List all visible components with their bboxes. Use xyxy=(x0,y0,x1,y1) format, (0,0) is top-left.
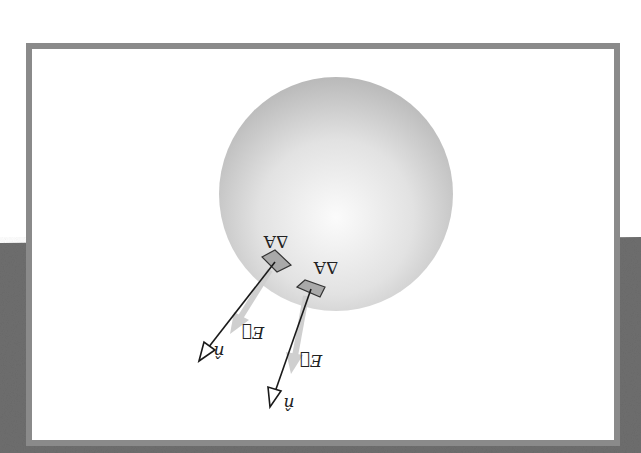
figure-photo: ΔA ΔA n̂ n̂ E⃗ E⃗ xyxy=(0,0,641,453)
normal-label-1: n̂ xyxy=(214,342,225,362)
normal-label-2: n̂ xyxy=(284,394,295,414)
area-label-1: ΔA xyxy=(263,232,288,252)
area-label-2: ΔA xyxy=(313,258,338,278)
field-label-1: E⃗ xyxy=(242,323,266,343)
field-label-2: E⃗ xyxy=(300,351,324,371)
